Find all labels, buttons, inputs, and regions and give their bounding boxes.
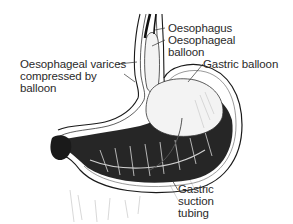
diagram-canvas: Oesophagus Oesophageal balloon Oesophage… (0, 0, 293, 224)
pylorus (50, 135, 71, 160)
label-oesophageal-balloon-line1: Oesophageal (168, 34, 235, 47)
label-gastric-suction-line1: Gastric (178, 183, 214, 196)
oesophageal-balloon-shape (145, 33, 160, 93)
label-gastric-suction-line2: suction (178, 195, 214, 208)
label-gastric-balloon: Gastric balloon (203, 58, 278, 71)
label-gastric-suction-line3: tubing (178, 207, 209, 220)
label-oesophageal-varices-line1: Oesophageal varices (20, 58, 126, 71)
stomach-illustration (0, 0, 293, 224)
label-oesophageal-varices-line2: compressed by (20, 70, 97, 83)
label-oesophagus: Oesophagus (168, 22, 232, 35)
label-oesophageal-varices-line3: balloon (20, 82, 56, 95)
label-oesophageal-balloon-line2: balloon (168, 46, 204, 59)
